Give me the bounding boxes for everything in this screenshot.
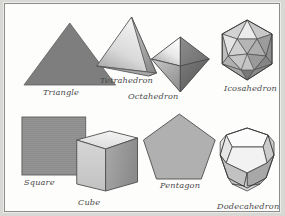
- label-pentagon: Pentagon: [160, 181, 200, 189]
- label-tetrahedron: Tetrahedron: [100, 76, 153, 84]
- shape-pentagon: [143, 114, 215, 179]
- shape-square: [22, 117, 86, 175]
- shape-icosahedron: [222, 20, 272, 80]
- shape-dodecahedron: [220, 128, 274, 191]
- figure-frame: Triangle Tetrahedron Octahedron Icosahed…: [4, 3, 280, 212]
- figure-root: Triangle Tetrahedron Octahedron Icosahed…: [0, 0, 285, 216]
- shape-cube: [77, 131, 138, 191]
- shape-octahedron: [151, 37, 209, 92]
- label-dodecahedron: Dodecahedron: [217, 202, 279, 210]
- label-square: Square: [24, 178, 55, 186]
- label-icosahedron: Icosahedron: [224, 84, 277, 92]
- label-octahedron: Octahedron: [128, 92, 178, 100]
- label-triangle: Triangle: [43, 88, 79, 96]
- label-cube: Cube: [78, 198, 100, 206]
- shape-tetrahedron: [97, 17, 157, 76]
